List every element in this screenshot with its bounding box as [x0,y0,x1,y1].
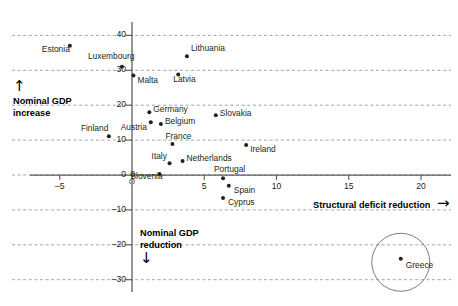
point-label-france: France [165,132,191,140]
point-label-finland: Finland [81,124,108,132]
y-axis-positive-title-line2: increase [13,108,72,120]
point-label-germany: Germany [153,105,187,113]
data-point[interactable] [170,142,174,146]
arrow-right-icon: → [437,196,450,211]
data-point[interactable] [214,113,218,117]
x-axis-title: Structural deficit reduction [313,200,430,212]
point-label-slovakia: Slovakia [220,109,252,117]
point-label-latvia: Latvia [173,75,195,83]
data-point[interactable] [399,257,403,261]
data-point[interactable] [131,74,135,78]
scatter-chart: 403020100–10–20–30 –505101520 EstoniaLux… [0,0,458,306]
y-tick-label--20: –20 [108,240,126,249]
x-tick-label--5: –5 [52,182,68,191]
y-tick-label--30: –30 [108,275,126,284]
y-axis-negative-title: Nominal GDP reduction [140,228,199,251]
data-point[interactable] [227,184,231,188]
point-label-malta: Malta [137,76,157,84]
point-label-portugal: Portugal [214,165,245,173]
point-label-belgium: Belgium [165,117,195,125]
y-axis-positive-title-line1: Nominal GDP [13,96,72,108]
point-label-luxembourg: Luxembourg [88,52,135,60]
data-point[interactable] [181,159,185,163]
x-tick-label-15: 15 [341,182,357,191]
point-label-netherlands: Netherlands [187,154,232,162]
point-label-slovenia: Slovenia [130,172,162,180]
data-point[interactable] [149,120,153,124]
data-point[interactable] [244,143,248,147]
y-axis-negative-title-line1: Nominal GDP [140,228,199,240]
arrow-up-icon: ↑ [13,79,26,94]
point-label-estonia: Estonia [42,45,70,53]
y-tick-label-30: 30 [108,65,126,74]
y-tick-label-40: 40 [108,30,126,39]
point-label-lithuania: Lithuania [191,44,225,52]
y-axis-positive-title: Nominal GDP increase [13,96,72,119]
y-tick-label-10: 10 [108,135,126,144]
point-label-spain: Spain [234,186,255,194]
y-tick-label-20: 20 [108,100,126,109]
data-point[interactable] [221,196,225,200]
data-point[interactable] [147,110,151,114]
point-label-italy: Italy [152,152,167,160]
point-label-austria: Austria [121,123,147,131]
data-point[interactable] [168,161,172,165]
point-label-greece: Greece [406,261,433,269]
point-label-cyprus: Cyprus [228,198,255,206]
arrow-down-icon: ↓ [140,251,153,266]
data-point[interactable] [185,54,189,58]
x-tick-label-20: 20 [413,182,429,191]
x-tick-label-10: 10 [269,182,285,191]
data-point[interactable] [221,176,225,180]
point-label-ireland: Ireland [250,145,276,153]
data-point[interactable] [159,122,163,126]
x-tick-label-5: 5 [196,182,212,191]
y-tick-label--10: –10 [108,205,126,214]
